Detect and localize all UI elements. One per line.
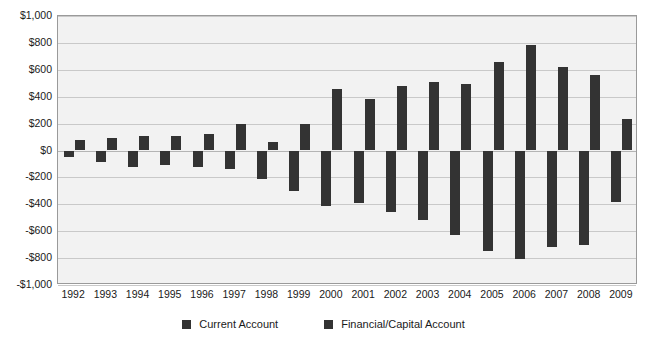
bar	[128, 151, 138, 167]
bar	[526, 45, 536, 151]
bar	[289, 151, 299, 191]
chart-legend: Current AccountFinancial/Capital Account	[0, 313, 647, 335]
x-tick-label: 2009	[605, 288, 637, 301]
bar	[225, 151, 235, 170]
bar	[332, 89, 342, 150]
balance-of-payments-bar-chart: $1,000$800$600$400$200$0-$200-$400-$600-…	[0, 0, 647, 341]
x-tick-label: 2000	[315, 288, 347, 301]
gridline	[58, 97, 636, 98]
x-tick-label: 2003	[411, 288, 443, 301]
x-axis: 1992199319941995199619971998199920002001…	[57, 288, 637, 304]
bar	[257, 151, 267, 180]
bar	[160, 151, 170, 166]
legend-swatch-icon	[182, 320, 191, 329]
gridline	[58, 16, 636, 17]
y-tick-label: -$1,000	[0, 279, 52, 290]
x-tick-label: 1997	[218, 288, 250, 301]
x-tick-label: 1995	[154, 288, 186, 301]
x-tick-label: 2005	[476, 288, 508, 301]
bar	[268, 142, 278, 150]
bar	[397, 86, 407, 151]
bar	[450, 151, 460, 236]
y-axis: $1,000$800$600$400$200$0-$200-$400-$600-…	[0, 0, 52, 341]
gridline	[58, 70, 636, 71]
bar	[171, 136, 181, 151]
x-tick-label: 1998	[250, 288, 282, 301]
x-tick-label: 2008	[573, 288, 605, 301]
plot-area	[57, 15, 637, 284]
y-tick-label: -$800	[0, 252, 52, 263]
x-tick-label: 2002	[379, 288, 411, 301]
y-tick-label: -$400	[0, 198, 52, 209]
x-tick-label: 1993	[89, 288, 121, 301]
legend-label: Current Account	[199, 318, 278, 330]
bar	[236, 124, 246, 150]
bar	[193, 151, 203, 168]
bar	[354, 151, 364, 204]
bar	[365, 99, 375, 151]
bar	[204, 134, 214, 150]
legend-item[interactable]: Financial/Capital Account	[324, 318, 465, 330]
bar	[418, 151, 428, 221]
y-tick-label: $800	[0, 37, 52, 48]
legend-swatch-icon	[324, 320, 333, 329]
bar	[139, 136, 149, 151]
bar	[461, 84, 471, 151]
bar	[107, 138, 117, 151]
bar	[64, 151, 74, 158]
gridline	[58, 258, 636, 259]
x-tick-label: 1994	[121, 288, 153, 301]
bar	[386, 151, 396, 213]
x-tick-label: 1999	[283, 288, 315, 301]
legend-label: Financial/Capital Account	[341, 318, 465, 330]
gridline	[58, 285, 636, 286]
x-tick-label: 2006	[508, 288, 540, 301]
y-tick-label: -$600	[0, 225, 52, 236]
bar	[494, 62, 504, 151]
bar	[96, 151, 106, 162]
y-tick-label: $1,000	[0, 10, 52, 21]
bar	[429, 82, 439, 151]
bar	[611, 151, 621, 202]
legend-item[interactable]: Current Account	[182, 318, 278, 330]
bar	[300, 124, 310, 151]
x-tick-label: 2004	[444, 288, 476, 301]
y-tick-label: $400	[0, 91, 52, 102]
y-tick-label: $0	[0, 145, 52, 156]
bar	[321, 151, 331, 207]
bar	[590, 75, 600, 150]
bar	[579, 151, 589, 245]
y-tick-label: -$200	[0, 171, 52, 182]
gridline	[58, 124, 636, 125]
bar	[622, 119, 632, 151]
y-tick-label: $200	[0, 118, 52, 129]
bar	[75, 140, 85, 150]
x-tick-label: 1996	[186, 288, 218, 301]
x-tick-label: 2001	[347, 288, 379, 301]
bar	[547, 151, 557, 247]
bar	[483, 151, 493, 251]
y-tick-label: $600	[0, 64, 52, 75]
bar	[558, 67, 568, 150]
x-tick-label: 1992	[57, 288, 89, 301]
gridline	[58, 43, 636, 44]
x-tick-label: 2007	[540, 288, 572, 301]
bar	[515, 151, 525, 259]
